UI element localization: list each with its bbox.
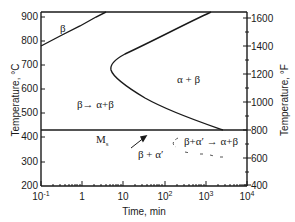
label-dashed-region: β+α′ → α+β <box>184 135 238 147</box>
label-beta-to-alpha-beta: β→ α+β <box>77 98 114 110</box>
y-right-tick-1200: 1200 <box>251 69 274 80</box>
y-right-tick-1600: 1600 <box>251 13 274 24</box>
y-tick-300: 300 <box>21 156 38 167</box>
y-tick-900: 900 <box>21 11 38 22</box>
left-y-tick-labels: 900 800 700 600 500 400 300 200 <box>21 11 38 191</box>
label-alpha-beta: α + β <box>177 73 200 85</box>
x-ticks <box>41 181 247 186</box>
y-tick-800: 800 <box>21 35 38 46</box>
x-tick-0.1: 10-1 <box>32 190 49 202</box>
x-tick-1000: 103 <box>198 190 213 202</box>
right-y-tick-labels: 1600 1400 1200 1000 800 600 400 <box>251 13 274 191</box>
transformation-c-curve <box>111 12 223 130</box>
y-right-tick-1400: 1400 <box>251 41 274 52</box>
x-tick-labels: 10-1 1 10 102 103 104 <box>32 190 254 202</box>
beta-transus-curve <box>41 12 106 46</box>
label-ms: Ms <box>96 133 109 148</box>
ms-arrow-head <box>141 136 146 141</box>
y-tick-600: 600 <box>21 83 38 94</box>
y-tick-400: 400 <box>21 131 38 142</box>
x-tick-100: 102 <box>157 190 172 202</box>
y-axis-title-right: Temperature, °F <box>279 64 290 136</box>
label-beta-alpha-prime: β + α′ <box>138 148 163 160</box>
y-tick-700: 700 <box>21 59 38 70</box>
x-tick-1: 1 <box>79 191 85 202</box>
y-right-tick-1000: 1000 <box>251 97 274 108</box>
x-tick-10000: 104 <box>239 190 254 202</box>
y-tick-500: 500 <box>21 107 38 118</box>
y-right-tick-600: 600 <box>251 153 268 164</box>
y-right-tick-800: 800 <box>251 125 268 136</box>
ttt-diagram: 900 800 700 600 500 400 300 200 1600 140… <box>0 0 295 222</box>
label-beta: β <box>60 22 66 34</box>
x-tick-10: 10 <box>117 191 129 202</box>
x-axis-title: Time, min <box>122 206 166 217</box>
y-tick-200: 200 <box>21 180 38 191</box>
y-axis-title-left: Temperature, °C <box>10 64 21 137</box>
